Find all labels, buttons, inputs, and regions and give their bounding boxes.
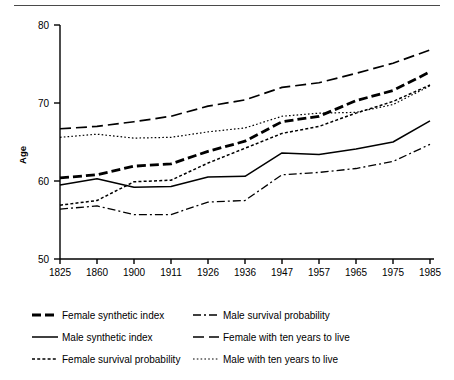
series-line-female-with-ten-years-to-live <box>60 50 430 129</box>
series-line-male-synthetic-index <box>60 121 430 187</box>
legend-item: Male survival probability <box>193 310 330 321</box>
age-trend-line-chart: 50607080Age18251860190019111926193619471… <box>0 0 454 380</box>
y-axis-title: Age <box>17 146 28 164</box>
legend-label: Female survival probability <box>62 354 180 365</box>
legend-label: Male with ten years to live <box>223 354 338 365</box>
chart-axes <box>60 25 434 259</box>
top-divider-rule <box>14 5 440 6</box>
series-line-male-survival-probability <box>60 144 430 214</box>
legend-label: Male survival probability <box>223 310 330 321</box>
x-tick-label: 1936 <box>234 267 257 278</box>
x-tick-label: 1911 <box>160 267 182 278</box>
x-tick-label: 1947 <box>271 267 294 278</box>
y-axis-ticks: 50607080 <box>38 20 60 265</box>
x-tick-label: 1985 <box>419 267 442 278</box>
legend-label: Female synthetic index <box>62 310 164 321</box>
legend-item: Male with ten years to live <box>193 354 338 365</box>
x-tick-label: 1926 <box>197 267 220 278</box>
chart-page: 50607080Age18251860190019111926193619471… <box>0 0 454 380</box>
y-tick-label: 70 <box>38 98 50 109</box>
chart-series-group <box>60 50 430 215</box>
legend-item: Female synthetic index <box>32 310 164 321</box>
legend-item: Male synthetic index <box>32 332 153 343</box>
legend-label: Male synthetic index <box>62 332 153 343</box>
x-tick-label: 1965 <box>345 267 368 278</box>
x-tick-label: 1957 <box>308 267 331 278</box>
x-tick-label: 1900 <box>123 267 146 278</box>
y-tick-label: 50 <box>38 254 50 265</box>
legend-item: Female survival probability <box>32 354 180 365</box>
legend-item: Female with ten years to live <box>193 332 350 343</box>
y-tick-label: 60 <box>38 176 50 187</box>
series-line-male-with-ten-years-to-live <box>60 86 430 138</box>
y-tick-label: 80 <box>38 20 50 31</box>
chart-legend: Female synthetic indexMale survival prob… <box>32 310 350 365</box>
x-tick-label: 1975 <box>382 267 405 278</box>
x-tick-label: 1860 <box>86 267 109 278</box>
x-tick-label: 1825 <box>49 267 72 278</box>
x-axis-ticks: 1825186019001911192619361947195719651975… <box>49 259 442 278</box>
legend-label: Female with ten years to live <box>223 332 350 343</box>
